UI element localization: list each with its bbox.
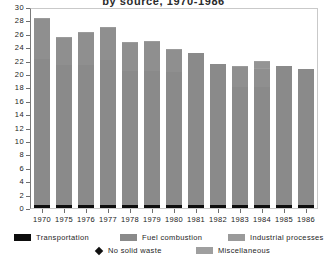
bar-slot[interactable] [210,9,225,208]
bar-segment [254,205,269,208]
x-axis-tick-mark [130,209,131,213]
bar-series-group [31,9,317,208]
bar-slot[interactable] [56,9,71,208]
legend-swatch-icon [120,234,137,241]
legend-item[interactable]: No solid waste [96,246,162,255]
legend-item-label: No solid waste [108,246,162,255]
legend-swatch-icon [228,234,245,241]
legend-item-label: Industrial processes [250,233,324,242]
legend-swatch-icon [14,234,31,241]
bar-segment [166,49,181,72]
x-axis-tick-label: 1980 [165,215,183,224]
bar-slot[interactable] [298,9,313,208]
y-axis-tick-mark [26,155,30,156]
bar-segment [210,205,225,208]
x-axis-tick-mark [42,209,43,213]
y-axis-tick-mark [26,182,30,183]
y-axis-tick-label: 20 [15,70,24,79]
legend-item[interactable]: Transportation [14,233,89,242]
bar-segment [254,87,269,206]
legend-item-label: Fuel combustion [142,233,202,242]
bar-segment [34,205,49,208]
bar-segment [188,205,203,208]
y-axis-tick-label: 4 [19,177,24,186]
y-axis-tick-mark [26,102,30,103]
y-axis-tick-mark [26,196,30,197]
x-axis-tick-mark [262,209,263,213]
y-axis-tick-label: 22 [15,57,24,66]
y-axis-tick-mark [26,48,30,49]
x-axis-tick-label: 1976 [77,215,95,224]
y-axis-tick-label: 24 [15,43,24,52]
bar-segment [56,65,71,206]
x-axis-tick-label: 1983 [231,215,249,224]
y-axis-tick-mark [26,35,30,36]
y-axis-tick-label: 26 [15,30,24,39]
stacked-bar[interactable] [254,61,269,208]
stacked-bar[interactable] [188,53,203,208]
y-axis-tick-label: 8 [19,150,24,159]
bar-segment [100,27,115,59]
bar-slot[interactable] [254,9,269,208]
y-axis-tick-mark [26,21,30,22]
stacked-bar[interactable] [122,42,137,208]
y-axis-tick-mark [26,8,30,9]
legend-row-primary: TransportationFuel combustionIndustrial … [0,231,327,244]
legend-item[interactable]: Miscellaneous [196,246,270,255]
y-axis-tick-mark [26,169,30,170]
bar-segment [122,205,137,208]
stacked-bar[interactable] [166,49,181,208]
legend-row-secondary: No solid wasteMiscellaneous [0,244,327,257]
y-axis-tick-label: 28 [15,16,24,25]
y-axis-tick-mark [26,129,30,130]
bar-slot[interactable] [166,9,181,208]
bar-slot[interactable] [122,9,137,208]
bar-segment [232,205,247,208]
bar-segment [188,53,203,206]
bar-slot[interactable] [100,9,115,208]
stacked-bar[interactable] [210,64,225,208]
legend-swatch-icon [196,247,213,254]
x-axis-tick-mark [240,209,241,213]
stacked-bar[interactable] [78,32,93,208]
x-axis-tick-label: 1977 [99,215,117,224]
bar-segment [210,64,225,205]
y-axis-tick-label: 30 [15,3,24,12]
bar-slot[interactable] [188,9,203,208]
x-axis-tick-mark [174,209,175,213]
bar-segment [34,59,49,204]
bar-segment [78,32,93,64]
bar-segment [144,205,159,208]
x-axis-tick-label: 1970 [33,215,51,224]
x-axis-tick-label: 1979 [143,215,161,224]
stacked-bar[interactable] [276,66,291,208]
stacked-bar[interactable] [100,27,115,208]
stacked-bar[interactable] [298,69,313,208]
stacked-bar[interactable] [232,66,247,208]
x-axis-tick-label: 1978 [121,215,139,224]
stacked-bar[interactable] [144,41,159,208]
y-axis-tick-label: 2 [19,191,24,200]
x-axis-tick-mark [86,209,87,213]
legend-item[interactable]: Industrial processes [228,233,324,242]
bar-segment [254,68,269,87]
x-axis: 1970197519761977197819791980198119821983… [31,209,317,231]
x-axis-tick-mark [64,209,65,213]
bar-segment [100,205,115,208]
stacked-bar[interactable] [56,37,71,208]
bar-slot[interactable] [276,9,291,208]
bar-segment [122,71,137,204]
bar-segment [100,60,115,205]
y-axis-tick-label: 10 [15,137,24,146]
y-axis: 024681012141618202224262830 [0,8,30,209]
bar-slot[interactable] [34,9,49,208]
bar-segment [298,69,313,205]
bar-slot[interactable] [144,9,159,208]
bar-slot[interactable] [78,9,93,208]
stacked-bar[interactable] [34,18,49,208]
x-axis-tick-label: 1982 [209,215,227,224]
legend-item[interactable]: Fuel combustion [120,233,202,242]
bar-slot[interactable] [232,9,247,208]
legend-item-label: Transportation [36,233,89,242]
bar-segment [78,205,93,208]
